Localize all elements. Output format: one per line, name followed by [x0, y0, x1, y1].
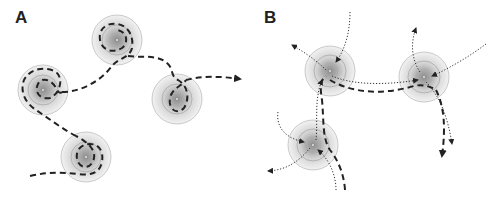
zone-a4: [61, 132, 111, 182]
zone-b1: [305, 46, 355, 96]
panel-b-zones: [288, 46, 449, 170]
zone-a2: [18, 65, 68, 115]
zone-a3: [152, 74, 202, 124]
diagram-canvas: [0, 0, 501, 198]
zone-b2: [399, 52, 449, 102]
zone-b3: [288, 120, 338, 170]
